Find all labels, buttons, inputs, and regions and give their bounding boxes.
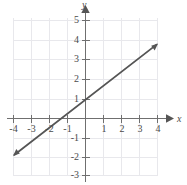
y-axis-label: y: [82, 0, 86, 10]
x-tick-label--4: -4: [5, 124, 22, 134]
y-tick-label-3: 3: [63, 54, 79, 64]
coordinate-plane-figure: -4 -3 -2 -1 1 2 3 4 5 4 3 2 1 -1 -2 -3 y…: [0, 0, 187, 185]
x-tick-label--3: -3: [23, 124, 40, 134]
x-tick-label-4: 4: [150, 124, 166, 134]
x-tick-label-3: 3: [132, 124, 148, 134]
y-tick-label--3: -3: [60, 170, 79, 180]
x-tick-label--2: -2: [41, 124, 58, 134]
y-tick-label-1: 1: [63, 94, 79, 104]
y-tick-label--2: -2: [60, 152, 79, 162]
x-axis-label: x: [177, 114, 181, 124]
x-tick-label-2: 2: [114, 124, 130, 134]
x-tick-label-1: 1: [96, 124, 112, 134]
y-tick-label-5: 5: [63, 15, 79, 25]
y-axis: [81, 5, 89, 182]
y-tick-label-2: 2: [63, 74, 79, 84]
x-axis: [7, 114, 174, 122]
y-tick-label--1: -1: [60, 133, 79, 143]
graph-canvas: [0, 0, 187, 185]
y-tick-label-4: 4: [63, 35, 79, 45]
